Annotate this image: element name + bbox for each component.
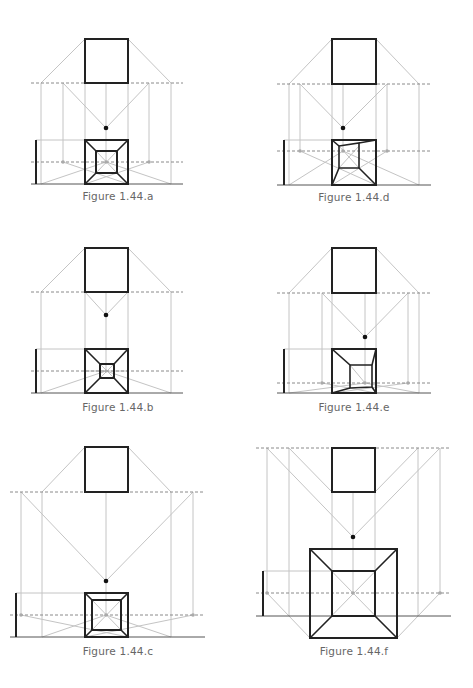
- caption-figure-a: Figure 1.44.a: [0, 190, 236, 202]
- caption-figure-d: Figure 1.44.d: [236, 191, 472, 203]
- caption-figure-c: Figure 1.44.c: [0, 645, 236, 657]
- perspective-figures-canvas: [0, 0, 473, 688]
- caption-figure-f: Figure 1.44.f: [236, 645, 472, 657]
- figure-1-44-b: [31, 248, 183, 393]
- figure-1-44-d: [277, 39, 431, 185]
- figure-1-44-c: [10, 447, 205, 637]
- caption-figure-e: Figure 1.44.e: [236, 401, 472, 413]
- figure-1-44-a: [31, 39, 183, 184]
- figure-1-44-f: [256, 448, 451, 638]
- figure-1-44-e: [277, 248, 431, 393]
- caption-figure-b: Figure 1.44.b: [0, 401, 236, 413]
